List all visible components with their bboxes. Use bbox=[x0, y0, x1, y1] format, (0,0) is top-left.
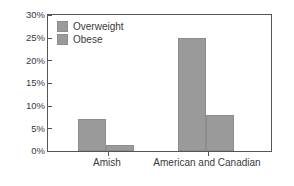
y-axis-tick-label: 10% bbox=[26, 101, 48, 111]
x-axis-category-label: Amish bbox=[93, 158, 121, 168]
legend-swatch-icon bbox=[57, 34, 68, 45]
x-axis-tick-mark bbox=[108, 151, 109, 156]
y-axis-tick-label: 20% bbox=[26, 56, 48, 66]
bar-chart: 30% 25% 20% 15% 10% 5% bbox=[0, 0, 294, 186]
x-axis-category-label: American and Canadian bbox=[153, 158, 260, 168]
legend-label: Obese bbox=[73, 35, 102, 45]
legend-item-overweight: Overweight bbox=[57, 21, 124, 32]
y-axis-tick-mark bbox=[48, 151, 52, 152]
legend: Overweight Obese bbox=[57, 21, 124, 47]
y-axis-tick-label: 0% bbox=[31, 146, 48, 156]
legend-item-obese: Obese bbox=[57, 34, 124, 45]
bar-american-overweight bbox=[178, 38, 206, 151]
y-axis-tick-label: 15% bbox=[26, 78, 48, 88]
legend-swatch-icon bbox=[57, 21, 68, 32]
legend-label: Overweight bbox=[73, 22, 124, 32]
y-axis-tick-label: 30% bbox=[26, 10, 48, 20]
bar-amish-overweight bbox=[78, 119, 106, 151]
x-axis-tick-mark bbox=[208, 151, 209, 156]
y-axis-tick-label: 5% bbox=[31, 124, 48, 134]
plot-area: 30% 25% 20% 15% 10% 5% bbox=[47, 14, 272, 152]
bar-american-obese bbox=[206, 115, 234, 151]
bar-amish-obese bbox=[106, 145, 134, 151]
y-axis-tick-label: 25% bbox=[26, 33, 48, 43]
